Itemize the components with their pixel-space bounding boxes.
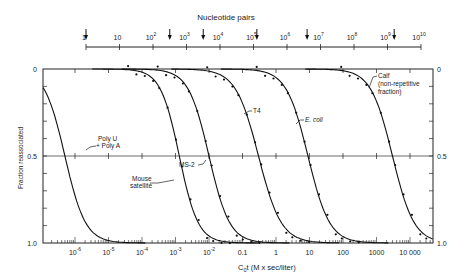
label-poly-a: + Poly A (96, 142, 121, 150)
curve-0 (43, 88, 145, 243)
data-point (310, 164, 312, 166)
data-point (215, 75, 217, 77)
data-point (188, 90, 190, 92)
x-tick-label: 100 (337, 249, 349, 256)
top-tick-label: 104 (213, 31, 224, 41)
data-point (394, 164, 396, 166)
data-point (206, 237, 208, 239)
data-point (182, 82, 184, 84)
data-point (189, 198, 191, 200)
x-tick-label: 10-2 (203, 246, 215, 256)
data-point (256, 66, 258, 68)
data-point (152, 80, 154, 82)
data-point (365, 84, 367, 86)
x-tick-label: 10-6 (69, 246, 81, 256)
data-point (242, 238, 244, 240)
data-point (212, 240, 214, 242)
data-point (237, 94, 239, 96)
data-point (425, 237, 427, 239)
data-point (380, 112, 382, 114)
y-left-half: 0.5 (27, 153, 37, 160)
data-point (231, 86, 233, 88)
data-point (285, 232, 287, 234)
data-point (144, 75, 146, 77)
label-calf: Calf (378, 72, 390, 79)
y-right-0: 0 (437, 66, 441, 73)
top-tick-label: 103 (179, 31, 190, 41)
arrow-head-icon (305, 35, 309, 40)
y-right-half: 0.5 (437, 153, 447, 160)
data-point (165, 74, 167, 76)
x-tick-label: 10-3 (169, 246, 181, 256)
data-point (308, 241, 310, 243)
calf-leader (369, 76, 377, 88)
label-ecoli: E. coli (305, 116, 323, 123)
data-point (259, 242, 261, 244)
data-point (173, 76, 175, 78)
data-point (211, 164, 213, 166)
data-point (264, 75, 266, 77)
top-tick-label: 106 (280, 31, 291, 41)
arrow-head-icon (255, 35, 259, 40)
y-left-1: 1.0 (27, 240, 37, 247)
data-point (157, 66, 159, 68)
x-axis-title: C0t (M x sec/liter) (238, 263, 296, 273)
label-t4: T4 (253, 107, 261, 114)
data-point (411, 214, 413, 216)
data-point (371, 92, 373, 94)
data-point (287, 92, 289, 94)
data-point (220, 242, 222, 244)
data-point (341, 237, 343, 239)
data-point (229, 242, 231, 244)
data-point (291, 236, 293, 238)
data-point (127, 65, 129, 67)
data-point (198, 219, 200, 221)
data-point (227, 216, 229, 218)
data-point (206, 66, 208, 68)
top-tick-label: 108 (347, 31, 358, 41)
top-tick-label: 1010 (412, 31, 426, 41)
data-point (254, 141, 256, 143)
data-point (295, 112, 297, 114)
label-mouse: Mouse (132, 175, 152, 182)
data-point (335, 233, 337, 235)
data-point (219, 195, 221, 197)
data-point (388, 141, 390, 143)
arrow-head-icon (201, 35, 205, 40)
label-satellite: satellite (130, 182, 152, 189)
data-point (205, 140, 207, 142)
data-point (358, 241, 360, 243)
data-point (304, 141, 306, 143)
y-axis-title: Fraction reassociated (17, 127, 24, 190)
x-axis-labels: 10-610-510-410-310-20.1110100100010 000 (69, 246, 421, 256)
y-left-0: 0 (33, 66, 37, 73)
top-tick-label: 107 (313, 31, 324, 41)
data-point (419, 233, 421, 235)
data-point (272, 77, 274, 79)
data-point (135, 73, 137, 75)
data-point (236, 235, 238, 237)
label-non-repetitive: (non-repetitive (378, 80, 420, 88)
data-point (357, 77, 359, 79)
data-point (326, 214, 328, 216)
data-point (223, 79, 225, 81)
data-point (277, 212, 279, 214)
x-tick-label: 10 000 (399, 249, 421, 256)
top-tick-label: 109 (380, 31, 391, 41)
data-point (281, 84, 283, 86)
data-point (260, 163, 262, 165)
data-point (158, 87, 160, 89)
x-tick-label: 10-5 (102, 246, 114, 256)
x-tick-label: 1 (274, 249, 278, 256)
x-tick-label: 10 (306, 249, 314, 256)
data-point (402, 193, 404, 195)
x-tick-label: 10-4 (136, 246, 148, 256)
cot-curve-chart: Nucleotide pairs 11010210310410510610710… (0, 0, 465, 279)
data-point (300, 240, 302, 242)
data-point (318, 193, 320, 195)
top-tick-label: 102 (146, 31, 157, 41)
top-axis-title: Nucleotide pairs (197, 13, 254, 22)
x-tick-label: 0.1 (238, 249, 248, 256)
x-tick-label: 1000 (369, 249, 385, 256)
data-point (349, 240, 351, 242)
